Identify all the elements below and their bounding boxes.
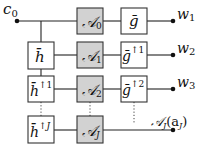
a-box-1: 𝒜1 — [77, 42, 103, 68]
h-box-0: h̄ — [28, 42, 54, 69]
output-node-w2 — [171, 53, 176, 58]
svg-text:h̄: h̄ — [35, 48, 45, 66]
a-box-2: 𝒜2 — [77, 76, 103, 102]
input-node — [15, 19, 20, 24]
wavelet-scattering-diagram: c0 𝒜0 𝒜1 𝒜2 𝒜J h̄ h̄↑1 h̄↑J ḡ ḡ↑1 ḡ↑2 — [0, 0, 205, 149]
output-label-w2: w2 — [177, 40, 195, 57]
svg-text:ḡ: ḡ — [129, 12, 139, 30]
h-box-j: h̄↑J — [28, 116, 54, 143]
output-label-aj: 𝒜J(aJ) — [151, 114, 187, 130]
h-box-1: h̄↑1 — [28, 76, 54, 102]
g-box-1: ḡ↑1 — [121, 42, 147, 68]
output-label-w3: w3 — [177, 74, 195, 91]
a-box-j: 𝒜J — [77, 116, 103, 143]
output-node-w3 — [171, 87, 176, 92]
output-node-w1 — [171, 19, 176, 24]
g-box-0: ḡ — [121, 8, 147, 34]
input-label: c0 — [3, 0, 18, 19]
a-box-0: 𝒜0 — [77, 8, 103, 34]
output-label-w1: w1 — [177, 6, 195, 23]
diagram-canvas: c0 𝒜0 𝒜1 𝒜2 𝒜J h̄ h̄↑1 h̄↑J ḡ ḡ↑1 ḡ↑2 — [0, 0, 205, 149]
g-box-2: ḡ↑2 — [121, 76, 147, 102]
